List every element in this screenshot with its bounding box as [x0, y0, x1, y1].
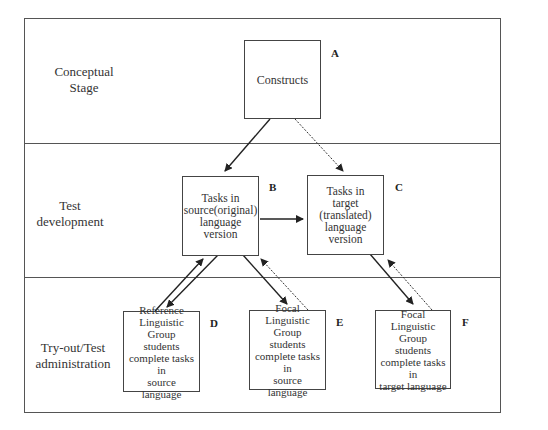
node-letter-c: C: [395, 181, 403, 193]
node-c-target-tasks: Tasks in target (translated) language ve…: [307, 175, 384, 255]
node-text-line: language: [184, 216, 257, 228]
node-text-line: source language: [252, 374, 323, 398]
node-text-line: version: [184, 228, 257, 240]
node-text-line: Group: [126, 328, 197, 340]
node-text-line: Focal Linguistic: [378, 308, 448, 332]
node-f-focal-target: Focal Linguistic Group students complete…: [375, 310, 451, 389]
node-text-line: complete tasks in: [252, 350, 323, 374]
stage-label-tryout: Try-out/Test administration: [28, 340, 118, 372]
stage-label-conceptual: Conceptual Stage: [44, 64, 124, 96]
node-letter-d: D: [210, 317, 218, 329]
node-text-line: target language: [378, 380, 448, 392]
node-text-line: students: [378, 344, 448, 356]
node-text-line: (translated): [319, 209, 371, 221]
node-a-constructs: Constructs: [244, 40, 321, 119]
node-text-line: students: [126, 340, 197, 352]
stage-divider-2: [24, 277, 501, 278]
node-text-line: students: [252, 338, 323, 350]
node-text-line: complete tasks in: [378, 356, 448, 380]
node-b-source-tasks: Tasks in source(original) language versi…: [182, 176, 259, 256]
stage-label-line: Test: [30, 198, 110, 214]
node-letter-b: B: [269, 181, 276, 193]
node-text-line: target: [319, 197, 371, 209]
stage-label-test-development: Test development: [30, 198, 110, 230]
node-text-line: Group: [378, 332, 448, 344]
node-text-line: Tasks in: [184, 192, 257, 204]
node-letter-a: A: [331, 47, 339, 59]
node-text-line: version: [319, 233, 371, 245]
node-d-reference-group: Reference Linguistic Group students comp…: [123, 311, 200, 392]
stage-label-line: administration: [28, 356, 118, 372]
node-e-focal-source: Focal Linguistic Group students complete…: [249, 310, 326, 390]
stage-divider-1: [24, 143, 501, 144]
stage-label-line: Stage: [44, 80, 124, 96]
node-text-line: Focal Linguistic: [252, 302, 323, 326]
node-text-line: source language: [126, 376, 197, 400]
node-text-line: Reference: [126, 304, 197, 316]
stage-label-line: Try-out/Test: [28, 340, 118, 356]
node-text-line: Tasks in: [319, 185, 371, 197]
node-text-line: Constructs: [257, 74, 308, 86]
node-letter-e: E: [336, 316, 343, 328]
stage-label-line: development: [30, 214, 110, 230]
stage-label-line: Conceptual: [44, 64, 124, 80]
node-text-line: source(original): [184, 204, 257, 216]
node-text-line: language: [319, 221, 371, 233]
node-letter-f: F: [462, 316, 469, 328]
node-text-line: Group: [252, 326, 323, 338]
node-text-line: Linguistic: [126, 316, 197, 328]
node-text-line: complete tasks in: [126, 352, 197, 376]
